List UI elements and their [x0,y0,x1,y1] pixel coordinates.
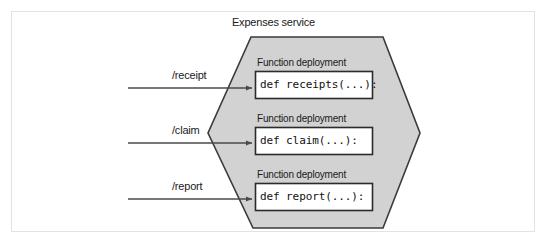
route-label-report: /report [172,180,202,192]
function-code-report: def report(...): [260,190,364,203]
function-code-claim: def claim(...): [260,134,358,147]
function-deployment-label-3: Function deployment [257,169,346,180]
function-code-receipts: def receipts(...): [260,78,377,91]
function-deployment-label-1: Function deployment [257,57,346,68]
route-label-claim: /claim [172,124,200,136]
figure-root: Expenses service Function deployment Fun… [0,0,547,247]
service-title: Expenses service [0,16,547,28]
route-label-receipt: /receipt [172,69,206,81]
function-deployment-label-2: Function deployment [257,113,346,124]
